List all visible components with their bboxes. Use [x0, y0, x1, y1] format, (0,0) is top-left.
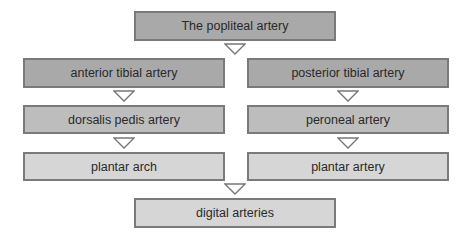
node-posterior-tibial-artery: posterior tibial artery [247, 58, 449, 88]
arrow-down-icon [224, 43, 246, 55]
node-popliteal-artery: The popliteal artery [134, 11, 336, 41]
node-label: dorsalis pedis artery [68, 113, 180, 127]
node-label: digital arteries [196, 206, 274, 220]
node-label: plantar artery [311, 160, 385, 174]
node-label: peroneal artery [306, 113, 390, 127]
node-plantar-arch: plantar arch [23, 152, 225, 181]
arrow-down-icon [337, 90, 359, 102]
arrow-down-icon [113, 90, 135, 102]
node-peroneal-artery: peroneal artery [247, 105, 449, 134]
node-label: plantar arch [91, 160, 157, 174]
node-dorsalis-pedis-artery: dorsalis pedis artery [23, 105, 225, 134]
node-label: posterior tibial artery [291, 66, 404, 80]
arrow-down-icon [113, 137, 135, 149]
node-digital-arteries: digital arteries [134, 198, 336, 228]
arrow-down-icon [224, 183, 246, 195]
node-label: anterior tibial artery [71, 66, 178, 80]
node-label: The popliteal artery [181, 19, 288, 33]
node-plantar-artery: plantar artery [247, 152, 449, 181]
arrow-down-icon [337, 137, 359, 149]
node-anterior-tibial-artery: anterior tibial artery [23, 58, 225, 88]
